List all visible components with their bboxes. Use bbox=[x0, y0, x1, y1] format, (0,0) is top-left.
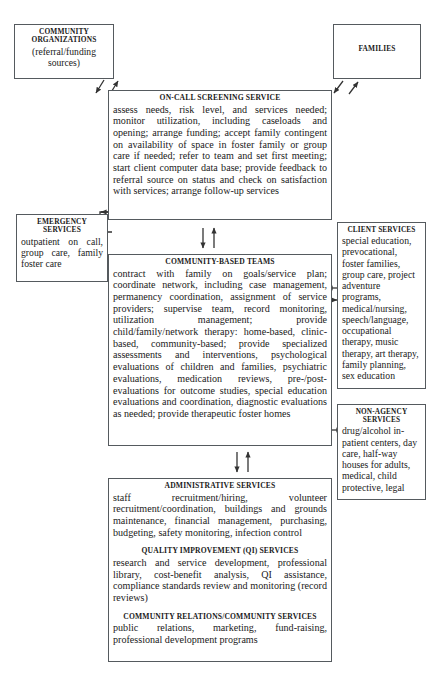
box-client-services: CLIENT SERVICES special education, prevo… bbox=[337, 222, 426, 389]
quality-improvement-body: research and service development, profes… bbox=[113, 557, 327, 604]
box-on-call-screening-service: ON-CALL SCREENING SERVICE assess needs, … bbox=[108, 90, 332, 220]
box-community-based-teams: COMMUNITY-BASED TEAMS contract with fami… bbox=[108, 254, 332, 446]
quality-improvement-heading: QUALITY IMPROVEMENT (QI) SERVICES bbox=[113, 547, 327, 556]
emergency-services-heading: EMERGENCY SERVICES bbox=[21, 218, 103, 235]
community-relations-heading: COMMUNITY RELATIONS/COMMUNITY SERVICES bbox=[113, 613, 327, 622]
arrow-families-to-screening bbox=[334, 81, 358, 94]
section-quality-improvement-services: QUALITY IMPROVEMENT (QI) SERVICES resear… bbox=[113, 547, 327, 603]
non-agency-services-body: drug/alcohol in-patient centers, day car… bbox=[342, 425, 421, 493]
client-services-heading: CLIENT SERVICES bbox=[342, 226, 421, 234]
administrative-services-heading: ADMINISTRATIVE SERVICES bbox=[113, 482, 327, 491]
administrative-services-body: staff recruitment/hiring, volunteer recr… bbox=[113, 492, 327, 539]
community-based-teams-heading: COMMUNITY-BASED TEAMS bbox=[113, 258, 327, 267]
diagram-canvas: COMMUNITY ORGANIZATIONS (referral/fundin… bbox=[0, 0, 439, 677]
community-relations-body: public relations, marketing, fund-raisin… bbox=[113, 622, 327, 645]
emergency-services-body: outpatient on call, group care, family f… bbox=[21, 236, 103, 270]
box-families: FAMILIES bbox=[333, 24, 421, 79]
on-call-screening-heading: ON-CALL SCREENING SERVICE bbox=[113, 94, 327, 103]
non-agency-services-heading: NON-AGENCY SERVICES bbox=[342, 408, 421, 424]
community-organizations-heading: COMMUNITY ORGANIZATIONS bbox=[19, 28, 109, 45]
box-emergency-services: EMERGENCY SERVICES outpatient on call, g… bbox=[16, 214, 108, 282]
section-administrative-services: ADMINISTRATIVE SERVICES staff recruitmen… bbox=[113, 482, 327, 538]
section-community-relations-services: COMMUNITY RELATIONS/COMMUNITY SERVICES p… bbox=[113, 613, 327, 646]
community-organizations-body: (referral/funding sources) bbox=[19, 46, 109, 68]
arrow-teams-to-administrative bbox=[237, 452, 248, 472]
arrow-screening-to-teams bbox=[203, 228, 214, 248]
community-based-teams-body: contract with family on goals/service pl… bbox=[113, 268, 327, 420]
box-non-agency-services: NON-AGENCY SERVICES drug/alcohol in-pati… bbox=[337, 404, 426, 500]
client-services-body: special education, prevocational, foster… bbox=[342, 235, 421, 381]
box-community-organizations: COMMUNITY ORGANIZATIONS (referral/fundin… bbox=[14, 24, 114, 79]
families-heading: FAMILIES bbox=[338, 45, 416, 53]
on-call-screening-body: assess needs, risk level, and services n… bbox=[113, 104, 327, 198]
box-administrative-services: ADMINISTRATIVE SERVICES staff recruitmen… bbox=[108, 478, 332, 662]
